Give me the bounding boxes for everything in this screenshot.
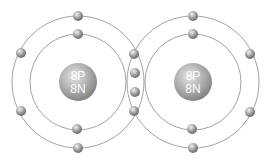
electron [16, 106, 26, 116]
electron [245, 49, 255, 59]
oxygen-molecule-diagram: 8P 8N 8P 8N [0, 0, 269, 166]
right-nucleus-neutrons: 8N [185, 82, 200, 96]
electron [73, 29, 83, 39]
electron [187, 124, 197, 134]
electron [73, 143, 83, 153]
right-nucleus-protons: 8P [186, 69, 201, 83]
shared-electrons [129, 49, 140, 116]
electron [188, 143, 198, 153]
shared-electron [130, 87, 140, 97]
electron [188, 11, 198, 21]
electron [188, 29, 198, 39]
electron [72, 124, 82, 134]
electron [16, 48, 26, 58]
electron [73, 11, 83, 21]
electron [245, 107, 255, 117]
left-nucleus-neutrons: 8N [70, 82, 85, 96]
shared-electron [129, 49, 139, 59]
shared-electron [129, 106, 139, 116]
shared-electron [130, 68, 140, 78]
left-nucleus-protons: 8P [71, 69, 86, 83]
